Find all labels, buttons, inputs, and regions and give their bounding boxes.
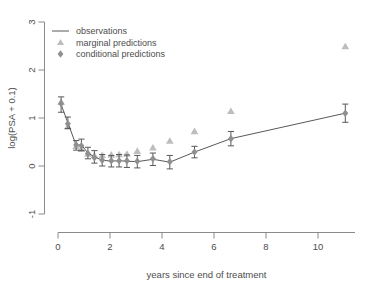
conditional-prediction-marker <box>228 135 234 143</box>
y-tick-label: 0 <box>26 163 37 168</box>
x-tick-label: 0 <box>55 241 60 252</box>
conditional-prediction-marker <box>58 100 64 108</box>
chart-figure: -101230246810years since end of treatmen… <box>0 0 371 294</box>
conditional-prediction-marker <box>134 157 140 165</box>
axes-group: -101230246810 <box>26 19 356 252</box>
legend-diamond-swatch <box>58 50 64 57</box>
marginal-prediction-marker <box>227 107 235 114</box>
y-tick-label: -1 <box>26 210 37 218</box>
conditional-prediction-marker <box>150 155 156 163</box>
series-marginal-predictions <box>57 43 349 159</box>
plot-canvas: -101230246810years since end of treatmen… <box>0 0 371 294</box>
conditional-prediction-marker <box>108 157 114 165</box>
x-axis-title: years since end of treatment <box>147 269 267 280</box>
conditional-prediction-marker <box>192 148 198 156</box>
y-axis-title: log(PSA + 0.1) <box>6 87 17 149</box>
x-tick-label: 8 <box>263 241 268 252</box>
y-tick-label: 3 <box>26 19 37 24</box>
legend: observationsmarginal predictionsconditio… <box>52 26 166 59</box>
marginal-prediction-marker <box>341 43 349 50</box>
x-tick-label: 2 <box>107 241 112 252</box>
legend-label: marginal predictions <box>76 38 157 48</box>
conditional-prediction-marker <box>342 109 348 117</box>
conditional-prediction-marker <box>167 158 173 166</box>
observations-line <box>61 105 345 163</box>
legend-label: observations <box>76 26 128 36</box>
marginal-prediction-marker <box>166 137 174 144</box>
marginal-prediction-marker <box>149 144 157 151</box>
conditional-prediction-marker <box>116 157 122 165</box>
legend-triangle-swatch <box>57 39 64 45</box>
conditional-prediction-marker <box>124 157 130 165</box>
legend-label: conditional predictions <box>76 49 166 59</box>
y-tick-label: 2 <box>26 67 37 72</box>
x-tick-label: 10 <box>313 241 324 252</box>
marginal-prediction-marker <box>133 147 141 154</box>
x-tick-label: 4 <box>159 241 164 252</box>
y-tick-label: 1 <box>26 115 37 120</box>
x-tick-label: 6 <box>211 241 216 252</box>
marginal-prediction-marker <box>191 128 199 135</box>
